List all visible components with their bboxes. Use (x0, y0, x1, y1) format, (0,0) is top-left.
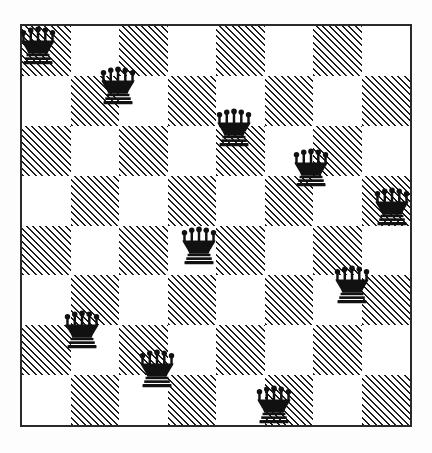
queen-piece[interactable] (135, 346, 179, 390)
queen-piece[interactable] (177, 223, 221, 267)
queen-piece[interactable] (330, 262, 374, 306)
queen-piece[interactable] (16, 23, 60, 67)
queen-icon (177, 223, 221, 267)
queen-piece[interactable] (289, 145, 333, 189)
queen-icon (135, 346, 179, 390)
queen-icon (289, 145, 333, 189)
page-root (0, 0, 432, 453)
queen-piece[interactable] (60, 307, 104, 351)
chessboard[interactable] (20, 24, 412, 427)
queen-icon (60, 307, 104, 351)
queen-piece[interactable] (370, 184, 414, 228)
queen-piece[interactable] (96, 63, 140, 107)
queen-icon (252, 382, 296, 426)
queen-icon (212, 105, 256, 149)
queen-icon (96, 63, 140, 107)
queen-icon (16, 23, 60, 67)
queen-piece[interactable] (212, 105, 256, 149)
queen-layer (20, 24, 412, 427)
queen-piece[interactable] (252, 382, 296, 426)
queen-icon (370, 184, 414, 228)
queen-icon (330, 262, 374, 306)
